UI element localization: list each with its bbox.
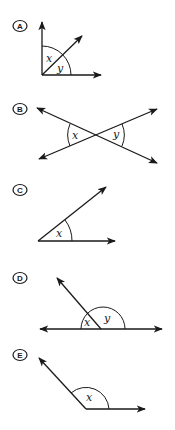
angle-arc bbox=[65, 220, 72, 241]
angle-label-y: y bbox=[112, 128, 120, 141]
angle-label-x: x bbox=[84, 316, 91, 329]
option-b[interactable]: B x y bbox=[13, 104, 157, 164]
option-b-label-badge: B bbox=[13, 104, 27, 115]
svg-text:B: B bbox=[17, 105, 23, 114]
svg-text:A: A bbox=[17, 22, 23, 31]
option-c[interactable]: C x bbox=[13, 185, 115, 242]
option-d[interactable]: D x y bbox=[13, 273, 162, 330]
option-e[interactable]: E x bbox=[13, 350, 145, 410]
svg-text:C: C bbox=[17, 186, 23, 195]
ray-upper bbox=[38, 187, 106, 241]
angle-arc-x bbox=[68, 124, 70, 146]
angle-label-x: x bbox=[86, 391, 93, 404]
angle-label-x: x bbox=[46, 52, 53, 65]
svg-text:D: D bbox=[17, 274, 23, 283]
angle-label-x: x bbox=[72, 129, 79, 142]
option-a-label-badge: A bbox=[13, 21, 27, 32]
svg-text:E: E bbox=[17, 351, 23, 360]
angle-label-y: y bbox=[56, 62, 64, 75]
ray-upper-left bbox=[39, 358, 86, 409]
option-d-label-badge: D bbox=[13, 273, 27, 284]
option-e-label-badge: E bbox=[13, 350, 27, 361]
option-c-label-badge: C bbox=[13, 185, 27, 196]
option-a[interactable]: A x y bbox=[13, 21, 101, 76]
angle-diagrams: A x y B x y C x D bbox=[0, 0, 175, 430]
angle-arc-y bbox=[122, 124, 124, 146]
ray-upper-left bbox=[57, 278, 101, 329]
angle-label-y: y bbox=[103, 312, 111, 325]
angle-label-x: x bbox=[56, 227, 63, 240]
